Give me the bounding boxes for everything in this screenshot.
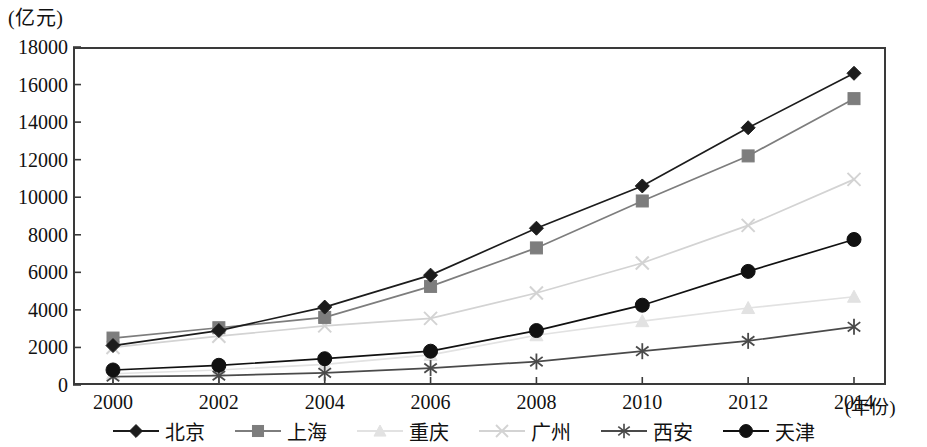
data-point-marker <box>848 173 861 186</box>
data-point-marker <box>529 324 543 338</box>
legend-label: 上海 <box>287 417 327 446</box>
chart-page: (亿元) 18000160001400012000100008000600040… <box>0 0 927 447</box>
x-tick-label: 2012 <box>728 392 768 412</box>
data-point-marker <box>739 425 752 438</box>
data-point-marker <box>847 66 861 80</box>
data-point-marker <box>374 425 386 436</box>
data-point-marker <box>742 219 755 232</box>
legend-swatch-asterisk-icon <box>601 422 647 440</box>
data-point-marker <box>529 221 543 235</box>
legend-label: 广州 <box>531 417 571 446</box>
data-point-marker <box>636 256 649 269</box>
chart-legend: 北京上海重庆广州西安天津 <box>0 415 927 447</box>
legend-swatch-triangle-icon <box>357 422 403 440</box>
x-tick-label: 2000 <box>93 392 133 412</box>
x-tick-label: 2002 <box>199 392 239 412</box>
data-point-marker <box>742 150 754 162</box>
legend-label: 重庆 <box>409 417 449 446</box>
x-tick-label: 2008 <box>516 392 556 412</box>
data-point-marker <box>530 242 542 254</box>
data-point-marker <box>318 352 332 366</box>
legend-swatch-circle-icon <box>723 422 769 440</box>
data-point-marker <box>106 363 120 377</box>
data-point-marker <box>847 232 861 246</box>
data-point-marker <box>848 93 860 105</box>
legend-item-1[interactable]: 上海 <box>235 417 327 446</box>
legend-item-0[interactable]: 北京 <box>113 417 205 446</box>
data-point-marker <box>741 264 755 278</box>
data-point-marker <box>424 344 438 358</box>
data-point-marker <box>636 195 648 207</box>
x-tick-label: 2006 <box>411 392 451 412</box>
legend-item-4[interactable]: 西安 <box>601 417 693 446</box>
data-point-marker <box>496 425 508 437</box>
data-point-marker <box>741 121 755 135</box>
data-point-marker <box>618 424 629 439</box>
legend-item-5[interactable]: 天津 <box>723 417 815 446</box>
data-point-marker <box>530 286 543 299</box>
legend-label: 北京 <box>165 417 205 446</box>
legend-label: 西安 <box>653 417 693 446</box>
legend-label: 天津 <box>775 417 815 446</box>
legend-swatch-diamond-icon <box>113 422 159 440</box>
data-point-marker <box>635 179 649 193</box>
legend-item-3[interactable]: 广州 <box>479 417 571 446</box>
legend-swatch-cross-icon <box>479 422 525 440</box>
data-point-marker <box>129 425 142 438</box>
chart-canvas <box>0 0 927 447</box>
x-tick-label: 2004 <box>305 392 345 412</box>
data-point-marker <box>848 290 861 302</box>
data-point-marker <box>635 298 649 312</box>
data-point-marker <box>252 425 263 436</box>
legend-swatch-square-icon <box>235 422 281 440</box>
x-tick-label: 2010 <box>622 392 662 412</box>
data-point-marker <box>212 358 226 372</box>
legend-item-2[interactable]: 重庆 <box>357 417 449 446</box>
